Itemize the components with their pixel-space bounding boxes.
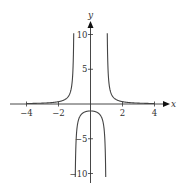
axes: x y xyxy=(10,10,176,183)
left-branch-curve xyxy=(27,33,74,103)
function-graph: x y −4−224105−5−10 xyxy=(0,0,181,193)
y-tick-label: 10 xyxy=(77,30,88,40)
x-tick-label: 2 xyxy=(120,108,125,118)
y-axis-arrow-icon xyxy=(88,21,94,28)
y-axis-label: y xyxy=(87,10,94,20)
x-axis-arrow-icon xyxy=(163,101,170,107)
x-axis-label: x xyxy=(171,99,176,109)
x-tick-label: −4 xyxy=(20,108,33,118)
right-branch-curve xyxy=(107,33,154,103)
x-tick-label: −2 xyxy=(52,108,65,118)
y-tick-label: −10 xyxy=(70,169,88,179)
x-tick-label: 4 xyxy=(152,108,157,118)
y-tick-label: 5 xyxy=(82,64,87,74)
